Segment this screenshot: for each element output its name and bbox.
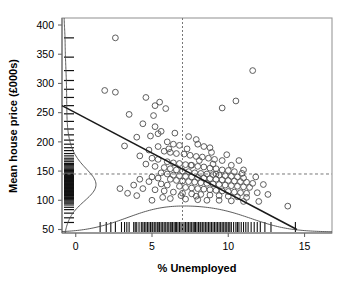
x-tick-label-0: 0 [73,240,79,252]
x-tick-label-5: 5 [149,240,155,252]
y-tick-label-150: 150 [36,165,54,177]
x-tick-label-10: 10 [222,240,234,252]
x-axis-title: % Unemployed [158,262,237,274]
scatter-plot-figure: 50100150200250300350400 Mean house price… [0,0,349,288]
y-tick-label-300: 300 [36,77,54,89]
y-axis-title: Mean house price (£000s) [7,59,19,193]
y-tick-label-200: 200 [36,136,54,148]
plot-svg: 50100150200250300350400 Mean house price… [0,0,349,288]
y-tick-label-100: 100 [36,194,54,206]
y-tick-label-250: 250 [36,106,54,118]
y-tick-label-350: 350 [36,48,54,60]
y-tick-label-400: 400 [36,19,54,31]
x-tick-label-15: 15 [299,240,311,252]
y-tick-label-50: 50 [42,223,54,235]
